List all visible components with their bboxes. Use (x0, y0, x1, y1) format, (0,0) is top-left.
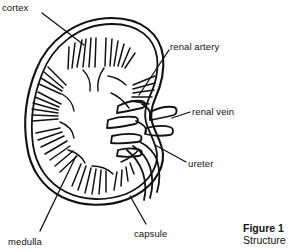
figure-caption-subtitle: Structure (243, 234, 286, 246)
renal-vessels-hilum (107, 101, 177, 157)
renal-calyx-arcs (60, 68, 139, 174)
leader-line-cortex (42, 13, 84, 45)
kidney-figure: cortex renal artery renal vein ureter ca… (0, 0, 292, 252)
label-capsule: capsule (134, 228, 167, 239)
label-medulla: medulla (8, 236, 42, 247)
leader-line-ureter (155, 145, 186, 162)
label-ureter: ureter (188, 158, 213, 169)
label-cortex: cortex (2, 2, 28, 13)
leader-line-renal-artery (139, 50, 169, 95)
medullary-pyramid-striations (32, 38, 155, 194)
kidney-diagram-svg (0, 0, 292, 252)
figure-caption: Figure 1 Structure (243, 222, 286, 246)
figure-caption-title: Figure 1 (243, 222, 286, 234)
label-renal-artery: renal artery (170, 41, 219, 52)
label-renal-vein: renal vein (192, 106, 234, 117)
